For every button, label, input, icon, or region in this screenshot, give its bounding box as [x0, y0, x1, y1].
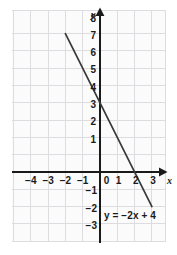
x-tick-label--2: −2 [60, 176, 71, 186]
y-tick-label-1: 1 [90, 135, 96, 145]
y-tick-label-7: 7 [90, 31, 96, 41]
x-tick-label-0: 0 [104, 176, 110, 186]
x-tick-label-1: 1 [116, 176, 122, 186]
x-tick-label-3: 3 [150, 176, 156, 186]
y-tick-label--1: −1 [86, 186, 97, 196]
x-axis-label: x [167, 176, 172, 186]
x-tick-label--3: −3 [42, 176, 53, 186]
graph-screenshot: −4 −3 −2 −1 0 1 2 3 8 7 6 5 4 3 2 1 −1 −… [0, 0, 177, 255]
equation-annotation: y = −2x + 4 [104, 211, 156, 221]
x-tick-label--4: −4 [25, 176, 36, 186]
y-tick-label-3: 3 [90, 100, 96, 110]
y-tick-label--2: −2 [86, 204, 97, 214]
y-tick-label-5: 5 [90, 65, 96, 75]
y-tick-label-2: 2 [90, 117, 96, 127]
y-tick-label-4: 4 [90, 83, 96, 93]
y-axis-label: y [91, 10, 95, 20]
y-tick-label--3: −3 [86, 221, 97, 231]
y-tick-label-6: 6 [90, 48, 96, 58]
x-tick-label-2: 2 [133, 176, 139, 186]
